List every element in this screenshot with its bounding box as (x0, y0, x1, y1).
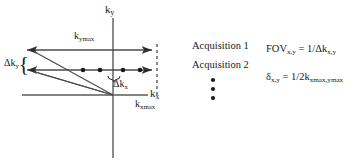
ellipsis-dot (211, 87, 215, 91)
sample-point (98, 68, 103, 73)
acquisition-2-label: Acquisition 2 (192, 60, 249, 71)
sample-point (81, 68, 86, 73)
kxmax-label: kxmax (135, 99, 155, 109)
delta-kx-label: Δkx (113, 79, 128, 89)
ellipsis-dot (211, 96, 215, 100)
kspace-figure: ky kx kymax kxmax Δky{ Δkx Acquisition 1… (0, 0, 364, 164)
ellipsis-dot (211, 78, 215, 82)
x-axis-label: kx (150, 88, 159, 99)
y-axis-label: ky (105, 4, 114, 15)
sample-point (121, 68, 126, 73)
fov-equation: FOVx,y = 1/Δkx,y (266, 44, 336, 55)
acquisition-1-label: Acquisition 1 (192, 41, 249, 52)
delta-ky-brace-glyph: { (19, 54, 29, 75)
radial-line-secondary (38, 73, 113, 95)
sample-point (138, 68, 143, 73)
resolution-equation: δx,y = 1/2kxmax,ymax (266, 72, 343, 83)
delta-ky-label: Δky{ (4, 53, 29, 74)
radial-line-to-acq1 (34, 52, 113, 96)
kymax-label: kymax (74, 31, 94, 41)
